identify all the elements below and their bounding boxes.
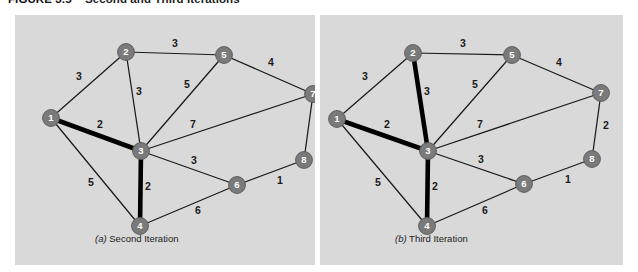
edge-weight-4-6: 6	[195, 204, 201, 216]
edge-weight-1-2: 3	[362, 70, 368, 82]
node-6[interactable]: 6	[516, 176, 533, 193]
node-label-7: 7	[598, 87, 603, 98]
graph-b: 325332537641212345678	[320, 15, 623, 265]
edge-weight-2-5: 3	[460, 37, 466, 49]
node-4[interactable]: 4	[419, 218, 436, 235]
figure-title: FIGURE 3.5 Second and Third Iterations	[8, 0, 240, 7]
node-5[interactable]: 5	[504, 47, 521, 64]
node-8[interactable]: 8	[296, 152, 313, 169]
edge-weight-6-8: 1	[565, 173, 571, 185]
edge-weight-2-5: 3	[172, 37, 178, 49]
panel-b-caption: (b) Third Iteration	[395, 233, 468, 244]
node-label-2: 2	[410, 47, 415, 58]
node-label-4: 4	[137, 220, 143, 231]
edge-weight-1-4: 5	[88, 176, 94, 188]
edge-weight-3-6: 3	[191, 154, 197, 166]
panel-b-caption-text: Third Iteration	[409, 233, 468, 244]
node-1[interactable]: 1	[43, 110, 60, 127]
edge-weight-2-3: 3	[136, 85, 142, 97]
node-label-7: 7	[310, 88, 315, 99]
edge-7-8	[592, 93, 601, 159]
edge-3-6	[141, 151, 237, 185]
node-5[interactable]: 5	[216, 47, 233, 64]
node-3[interactable]: 3	[420, 143, 437, 160]
edge-7-8	[304, 94, 313, 160]
panel-b-caption-label: (b)	[395, 233, 407, 244]
node-7[interactable]: 7	[305, 86, 315, 103]
node-8[interactable]: 8	[584, 151, 601, 168]
edge-weight-1-4: 5	[375, 176, 381, 188]
edge-6-8	[524, 159, 592, 184]
node-label-5: 5	[221, 49, 227, 60]
edge-weight-5-7: 4	[268, 56, 274, 68]
graph-a: 325332537641212345678	[15, 15, 315, 265]
edge-4-6	[427, 184, 524, 226]
edge-weight-6-8: 1	[277, 174, 283, 186]
edge-3-4	[140, 151, 141, 226]
edge-weight-3-4: 2	[145, 180, 151, 192]
edge-6-8	[237, 160, 304, 185]
edge-2-5	[126, 52, 224, 55]
edge-weight-2-3: 3	[424, 85, 430, 97]
node-label-4: 4	[424, 220, 430, 231]
node-label-3: 3	[425, 145, 430, 156]
edge-1-2	[51, 52, 126, 118]
edge-weight-3-5: 5	[472, 78, 478, 90]
node-6[interactable]: 6	[229, 177, 246, 194]
edge-weight-7-8: 2	[603, 119, 609, 131]
edge-weight-1-2: 3	[76, 70, 82, 82]
node-label-8: 8	[589, 153, 594, 164]
figure-panel-a: 325332537641212345678	[15, 15, 315, 265]
node-1[interactable]: 1	[329, 111, 346, 128]
figure-panel-b: 325332537641212345678	[320, 15, 623, 265]
node-7[interactable]: 7	[593, 85, 610, 102]
node-label-3: 3	[138, 145, 143, 156]
edge-weight-5-7: 4	[556, 56, 562, 68]
node-label-8: 8	[301, 154, 306, 165]
edge-weight-1-3: 2	[97, 118, 103, 130]
panel-a-caption: (a) Second Iteration	[95, 233, 178, 244]
edge-weight-4-6: 6	[482, 204, 488, 216]
node-label-1: 1	[334, 113, 340, 124]
figure-number: FIGURE 3.5	[8, 0, 72, 5]
edge-3-7	[141, 94, 313, 151]
node-2[interactable]: 2	[405, 45, 422, 62]
edge-weight-3-6: 3	[478, 153, 484, 165]
figure-title-text: Second and Third Iterations	[85, 0, 240, 5]
edge-weight-3-5: 5	[184, 78, 190, 90]
edge-weight-3-7: 7	[477, 118, 483, 130]
node-label-2: 2	[123, 46, 128, 57]
edge-3-4	[427, 151, 428, 226]
node-3[interactable]: 3	[133, 143, 150, 160]
node-label-1: 1	[48, 112, 54, 123]
edge-2-3	[126, 52, 141, 151]
node-label-6: 6	[234, 179, 239, 190]
edge-1-2	[337, 53, 413, 119]
node-2[interactable]: 2	[118, 44, 135, 61]
edge-4-6	[140, 185, 237, 226]
edge-weight-1-3: 2	[384, 118, 390, 130]
panel-a-caption-label: (a)	[95, 233, 107, 244]
panel-a-caption-text: Second Iteration	[109, 233, 178, 244]
edge-weight-3-7: 7	[190, 118, 196, 130]
node-4[interactable]: 4	[132, 218, 149, 235]
node-label-6: 6	[521, 178, 526, 189]
edge-3-6	[428, 151, 524, 184]
edge-2-5	[413, 53, 512, 55]
node-label-5: 5	[509, 49, 515, 60]
edge-weight-3-4: 2	[432, 180, 438, 192]
edge-2-3	[413, 53, 428, 151]
